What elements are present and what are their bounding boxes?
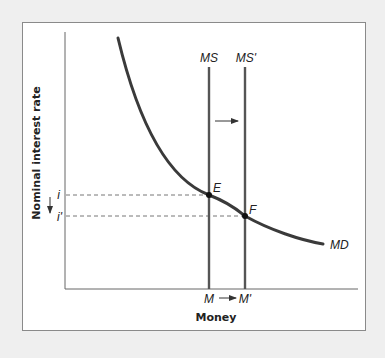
ms-label: MS (200, 51, 218, 65)
money-demand-curve (118, 38, 323, 244)
interest-rate-i-prime-label: i' (57, 210, 63, 224)
point-f-label: F (249, 203, 257, 217)
money-m-prime-label: M' (239, 292, 252, 306)
money-m-label: M (204, 292, 214, 306)
ms-prime-label: MS' (236, 51, 257, 65)
y-axis-label: Nominal interest rate (30, 86, 43, 219)
equilibrium-point-f (242, 213, 248, 219)
md-label: MD (330, 238, 349, 252)
x-axis-label: Money (196, 311, 237, 324)
point-e-label: E (213, 181, 222, 195)
money-market-diagram: MS MS' MD E F i i' M M' Money Nominal in… (0, 0, 385, 358)
equilibrium-point-e (206, 192, 212, 198)
interest-rate-i-label: i (57, 188, 60, 202)
